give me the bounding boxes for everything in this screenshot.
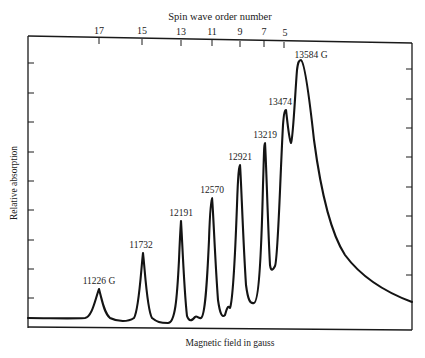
peak-label-11226: 11226 G (83, 276, 116, 286)
top-axis (28, 36, 412, 43)
peak-labels: 11226 G 11732 12191 12570 12921 13219 13… (83, 50, 328, 286)
tick-label-5: 5 (283, 27, 288, 38)
tick-label-11: 11 (207, 26, 217, 37)
top-axis-title: Spin wave order number (168, 11, 272, 22)
peak-label-11732: 11732 (129, 240, 153, 250)
left-ticks (28, 63, 34, 298)
tick-label-15: 15 (137, 25, 147, 36)
bottom-axis (28, 327, 412, 330)
peak-label-13584: 13584 G (295, 50, 328, 60)
tick-label-13: 13 (176, 26, 186, 37)
peak-label-12570: 12570 (200, 185, 224, 195)
peak-label-12191: 12191 (169, 208, 193, 218)
peak-label-13219: 13219 (253, 130, 277, 140)
x-axis-title: Magnetic field in gauss (186, 338, 275, 348)
peak-label-12921: 12921 (228, 152, 252, 162)
peak-label-13474: 13474 (268, 97, 292, 107)
spin-wave-absorption-chart: 17 15 13 11 9 7 5 Spin wave order number… (0, 0, 425, 358)
tick-label-9: 9 (238, 26, 243, 37)
right-ticks (406, 69, 412, 275)
y-axis-title: Relative absorption (9, 146, 19, 220)
tick-label-17: 17 (94, 25, 104, 36)
top-tick-labels: 17 15 13 11 9 7 5 (94, 25, 288, 38)
tick-label-7: 7 (262, 26, 267, 37)
